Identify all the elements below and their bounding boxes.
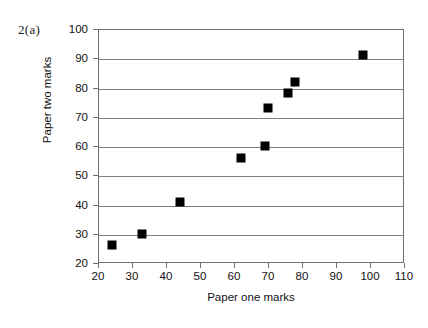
gridline-horizontal bbox=[99, 89, 403, 90]
x-axis-tick-mark bbox=[370, 263, 371, 268]
x-axis-tick-mark bbox=[336, 263, 337, 268]
y-axis-tick-label: 80 bbox=[54, 82, 88, 94]
plot-area bbox=[98, 29, 404, 263]
y-axis-tick-mark bbox=[93, 205, 98, 206]
x-axis-tick-mark bbox=[98, 263, 99, 268]
y-axis-tick-label: 20 bbox=[54, 257, 88, 269]
question-label: 2(a) bbox=[18, 22, 40, 38]
data-point bbox=[138, 229, 147, 238]
data-point bbox=[107, 241, 116, 250]
gridline-horizontal bbox=[99, 147, 403, 148]
gridline-horizontal bbox=[99, 176, 403, 177]
data-point bbox=[260, 142, 269, 151]
gridline-horizontal bbox=[99, 59, 403, 60]
data-point bbox=[291, 77, 300, 86]
data-point bbox=[264, 103, 273, 112]
data-point bbox=[359, 51, 368, 60]
y-axis-tick-label: 30 bbox=[54, 228, 88, 240]
x-axis-tick-mark bbox=[404, 263, 405, 268]
y-axis-tick-mark bbox=[93, 117, 98, 118]
data-point bbox=[175, 197, 184, 206]
x-axis-tick-mark bbox=[132, 263, 133, 268]
scatter-plot-figure: 2(a) Paper two marks Paper one marks 203… bbox=[0, 0, 428, 328]
y-axis-tick-mark bbox=[93, 146, 98, 147]
gridline-horizontal bbox=[99, 206, 403, 207]
y-axis-tick-label: 50 bbox=[54, 169, 88, 181]
y-axis-tick-mark bbox=[93, 58, 98, 59]
y-axis-tick-label: 60 bbox=[54, 140, 88, 152]
y-axis-title: Paper two marks bbox=[41, 40, 53, 160]
y-axis-tick-mark bbox=[93, 29, 98, 30]
x-axis-tick-mark bbox=[302, 263, 303, 268]
y-axis-tick-mark bbox=[93, 88, 98, 89]
x-axis-tick-mark bbox=[166, 263, 167, 268]
x-axis-tick-label: 110 bbox=[384, 270, 424, 282]
data-point bbox=[236, 153, 245, 162]
y-axis-tick-label: 90 bbox=[54, 52, 88, 64]
y-axis-tick-label: 100 bbox=[54, 23, 88, 35]
y-axis-tick-label: 40 bbox=[54, 199, 88, 211]
data-point bbox=[284, 89, 293, 98]
x-axis-tick-mark bbox=[268, 263, 269, 268]
y-axis-tick-mark bbox=[93, 234, 98, 235]
gridline-horizontal bbox=[99, 118, 403, 119]
y-axis-tick-mark bbox=[93, 175, 98, 176]
y-axis-tick-label: 70 bbox=[54, 111, 88, 123]
x-axis-tick-mark bbox=[200, 263, 201, 268]
x-axis-title: Paper one marks bbox=[98, 291, 404, 303]
x-axis-tick-mark bbox=[234, 263, 235, 268]
